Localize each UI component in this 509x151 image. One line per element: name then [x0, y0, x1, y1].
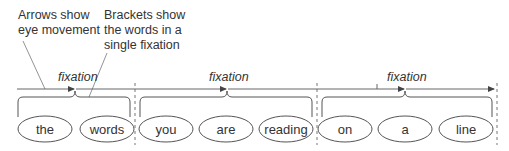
annotation-brackets: Brackets show the words in a single fixa…: [104, 8, 186, 52]
annotation-brackets-line-3: single fixation: [104, 38, 180, 52]
fixation-label-2: fixation: [209, 70, 249, 84]
annotation-brackets-line-2: the words in a: [104, 23, 182, 37]
annotation-brackets-line-1: Brackets show: [104, 8, 186, 22]
word-line: line: [456, 122, 476, 137]
word-the: the: [36, 122, 54, 137]
leader-line-arrows: [23, 41, 45, 89]
word-you: you: [156, 122, 177, 137]
bracket-group-2: [140, 91, 312, 117]
bracket-group-3: [322, 91, 492, 117]
word-words: words: [89, 122, 125, 137]
annotation-arrows-line-2: eye movement: [18, 23, 101, 37]
fixation-label-3: fixation: [387, 70, 427, 84]
bracket-group-1: [18, 91, 130, 117]
annotation-arrows-line-1: Arrows show: [18, 8, 91, 22]
brackets: [18, 91, 492, 117]
word-are: are: [217, 122, 236, 137]
annotation-arrows: Arrows show eye movement: [18, 8, 101, 37]
fixation-label-1: fixation: [58, 70, 98, 84]
word-a: a: [401, 122, 409, 137]
eye-movement-arrows: [17, 84, 494, 89]
word-on: on: [338, 122, 352, 137]
word-reading: reading: [264, 122, 307, 137]
eye-movement-diagram: Arrows show eye movement Brackets show t…: [0, 0, 509, 151]
